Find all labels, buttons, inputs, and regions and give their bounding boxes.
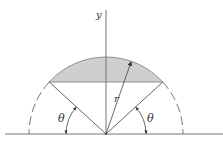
dashed-arc-left <box>29 82 49 134</box>
semicircle-segment-diagram: y r θ θ <box>0 0 223 147</box>
radial-line-right <box>106 82 163 134</box>
radius-label: r <box>114 93 120 104</box>
theta-label-left: θ <box>58 112 65 125</box>
dashed-arc-right <box>163 82 183 134</box>
y-axis-label: y <box>95 9 102 20</box>
angle-arrow-right-bottom <box>144 131 147 135</box>
angle-arrow-left-bottom <box>64 131 67 135</box>
origin-point <box>105 133 107 135</box>
radial-line-left <box>49 82 106 134</box>
theta-label-right: θ <box>147 112 154 125</box>
angle-arc-right <box>136 107 146 134</box>
angle-arc-left <box>66 107 76 134</box>
